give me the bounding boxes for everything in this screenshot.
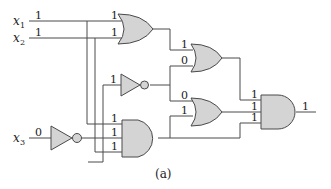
not1-in: 1 xyxy=(110,73,117,86)
or-gate-1 xyxy=(118,14,153,44)
final-output: 1 xyxy=(302,100,309,113)
input-label-x1: x 1 xyxy=(13,14,25,30)
or2-in-2: 0 xyxy=(181,54,188,67)
and1-in-2: 1 xyxy=(111,126,118,139)
or1-in-2: 1 xyxy=(111,26,118,39)
input-label-x2: x 2 xyxy=(13,31,25,47)
and-gate-final xyxy=(261,95,295,129)
logic-circuit-diagram: x 1 x 2 x 3 1 1 0 1 1 1 1 1 1 1 0 0 1 1 … xyxy=(0,0,331,189)
input-label-x3: x 3 xyxy=(13,131,25,147)
or-gate-2 xyxy=(191,44,222,72)
or3-in-1: 0 xyxy=(181,89,188,102)
or-gate-3 xyxy=(191,98,222,126)
wires xyxy=(29,21,316,162)
value-x2: 1 xyxy=(35,26,42,39)
svg-text:x: x xyxy=(13,131,20,145)
or1-in-1: 1 xyxy=(111,9,118,22)
svg-text:x: x xyxy=(13,31,20,45)
svg-text:2: 2 xyxy=(20,38,25,47)
and1-in-1: 1 xyxy=(111,112,118,125)
not-gate-x3 xyxy=(51,126,82,150)
or3-in-2: 1 xyxy=(181,104,188,117)
value-x1: 1 xyxy=(35,9,42,22)
and1-in-3: 1 xyxy=(111,140,118,153)
figure-caption: (a) xyxy=(155,167,172,181)
final-and-in-3: 1 xyxy=(251,111,258,124)
and-gate-1 xyxy=(122,120,153,157)
or2-in-1: 1 xyxy=(181,38,188,51)
value-x3: 0 xyxy=(35,126,42,139)
not-gate-1 xyxy=(121,74,149,96)
svg-text:3: 3 xyxy=(20,138,25,147)
svg-text:1: 1 xyxy=(20,21,25,30)
svg-text:x: x xyxy=(13,14,20,28)
